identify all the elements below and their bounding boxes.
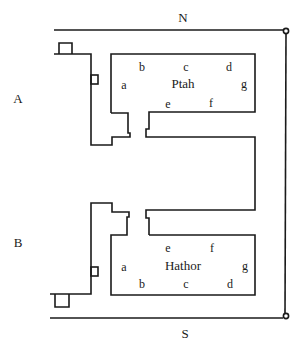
northeast-corner-post bbox=[283, 28, 288, 33]
ptah-position-c: c bbox=[183, 60, 188, 74]
west-niche-b bbox=[91, 267, 98, 276]
west-tower-a bbox=[54, 43, 130, 145]
east-wall bbox=[285, 34, 286, 313]
hathor-chapel-name: Hathor bbox=[165, 258, 202, 273]
section-label-b: B bbox=[14, 235, 23, 250]
west-structure-a bbox=[54, 43, 130, 145]
hathor-position-a: a bbox=[121, 260, 127, 274]
ptah-position-f: f bbox=[209, 96, 213, 110]
ptah-position-d: d bbox=[226, 60, 232, 74]
ptah-chapel-name: Ptah bbox=[171, 76, 195, 91]
hathor-position-b: b bbox=[139, 277, 145, 291]
west-structure-b bbox=[50, 203, 129, 307]
west-niche-a bbox=[91, 75, 98, 84]
ptah-position-g: g bbox=[241, 77, 247, 91]
temple-plan-diagram: N S A B Ptah a b c d e f g Hathor a b c … bbox=[0, 0, 302, 345]
southeast-corner-post bbox=[283, 313, 288, 318]
south-label: S bbox=[181, 326, 188, 341]
outer-enclosure bbox=[50, 28, 289, 318]
west-tower-b bbox=[50, 203, 129, 307]
hathor-position-c: c bbox=[183, 277, 188, 291]
hathor-position-d: d bbox=[227, 277, 233, 291]
hathor-position-e: e bbox=[165, 241, 170, 255]
ptah-position-b: b bbox=[139, 60, 145, 74]
north-label: N bbox=[178, 10, 188, 25]
hathor-position-g: g bbox=[242, 259, 248, 273]
ptah-position-a: a bbox=[121, 78, 127, 92]
hathor-position-f: f bbox=[210, 241, 214, 255]
ptah-position-e: e bbox=[165, 97, 170, 111]
section-label-a: A bbox=[13, 91, 23, 106]
